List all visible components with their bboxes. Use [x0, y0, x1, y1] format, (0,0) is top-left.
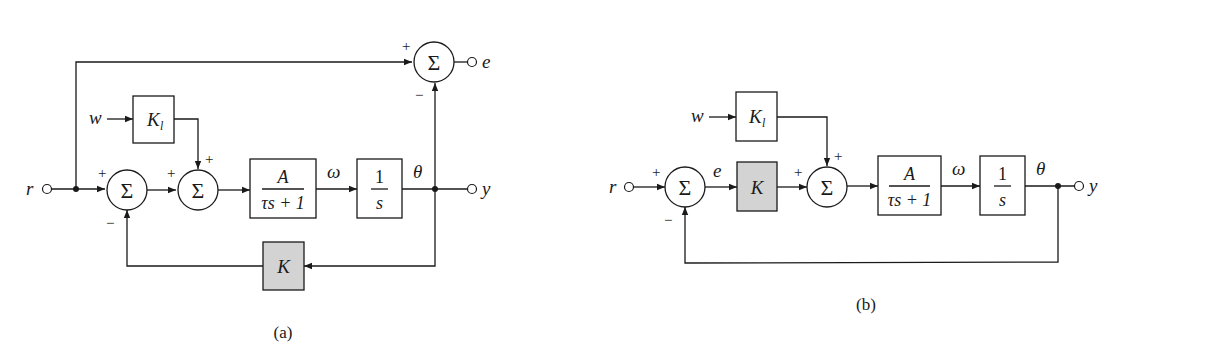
integrator-denominator: s — [999, 190, 1006, 210]
output-port-e — [468, 58, 477, 67]
signal-e-label: e — [482, 51, 490, 72]
sign-minus: − — [106, 215, 114, 231]
block-plant: A τs + 1 — [878, 156, 941, 215]
block-kl: K l — [736, 92, 777, 141]
sign-plus: + — [652, 164, 660, 180]
input-port-r — [625, 183, 634, 192]
kl-label: K — [146, 109, 161, 130]
plant-denominator: τs + 1 — [261, 193, 305, 213]
plant-numerator: A — [903, 164, 916, 184]
signal-omega-label: ω — [952, 158, 965, 179]
integrator-numerator: 1 — [998, 164, 1007, 184]
signal-r-label: r — [609, 176, 617, 197]
k-label: K — [276, 256, 291, 277]
sigma-symbol: Σ — [428, 50, 441, 75]
sign-plus: + — [794, 164, 802, 180]
sign-plus: + — [167, 165, 175, 181]
k-label: K — [750, 177, 765, 198]
panel-a: r Σ + − w K l Σ + + — [26, 38, 491, 342]
signal-e-label: e — [713, 160, 721, 181]
summer-2: Σ + + — [794, 148, 847, 207]
block-kl: K l — [133, 96, 174, 143]
wire-kl-to-sum2 — [174, 119, 198, 169]
signal-r-label: r — [26, 178, 34, 199]
signal-w-label: w — [89, 107, 102, 128]
block-k-controller: K — [737, 162, 777, 211]
sign-minus: − — [664, 212, 672, 228]
sign-plus: + — [834, 148, 842, 164]
signal-theta-label: θ — [1036, 158, 1045, 179]
sigma-symbol: Σ — [821, 175, 834, 200]
block-plant: A τs + 1 — [250, 159, 316, 218]
signal-omega-label: ω — [327, 161, 340, 182]
input-port-r — [43, 185, 52, 194]
sign-plus: + — [402, 38, 410, 54]
plant-numerator: A — [277, 167, 290, 187]
output-port-y — [1075, 182, 1084, 191]
summer-1: Σ + − — [652, 164, 705, 228]
sigma-symbol: Σ — [192, 178, 205, 203]
wire-k-to-sum1 — [127, 210, 263, 266]
summer-1: Σ + − — [98, 165, 147, 231]
sign-minus: − — [415, 87, 423, 103]
sign-plus: + — [205, 151, 213, 167]
block-integrator: 1 s — [980, 156, 1025, 215]
sigma-symbol: Σ — [121, 178, 134, 203]
panel-b: r Σ + − e K w K l Σ + + — [609, 92, 1098, 314]
signal-w-label: w — [691, 105, 704, 126]
plant-denominator: τs + 1 — [888, 190, 932, 210]
signal-y-label: y — [480, 178, 491, 199]
summer-error: Σ + − — [402, 38, 454, 103]
panel-b-caption: (b) — [856, 295, 876, 314]
kl-label: K — [748, 106, 763, 127]
wire-kl-to-sum2 — [777, 117, 827, 166]
panel-a-caption: (a) — [274, 323, 293, 342]
block-k-feedback: K — [263, 242, 304, 290]
block-diagram-canvas: r Σ + − w K l Σ + + — [0, 0, 1206, 363]
integrator-denominator: s — [376, 193, 383, 213]
block-integrator: 1 s — [357, 159, 402, 218]
signal-y-label: y — [1087, 175, 1098, 196]
signal-theta-label: θ — [413, 161, 422, 182]
integrator-numerator: 1 — [375, 167, 384, 187]
summer-2: Σ + + — [167, 151, 218, 210]
output-port-y — [468, 185, 477, 194]
sign-plus: + — [98, 165, 106, 181]
sigma-symbol: Σ — [679, 175, 692, 200]
